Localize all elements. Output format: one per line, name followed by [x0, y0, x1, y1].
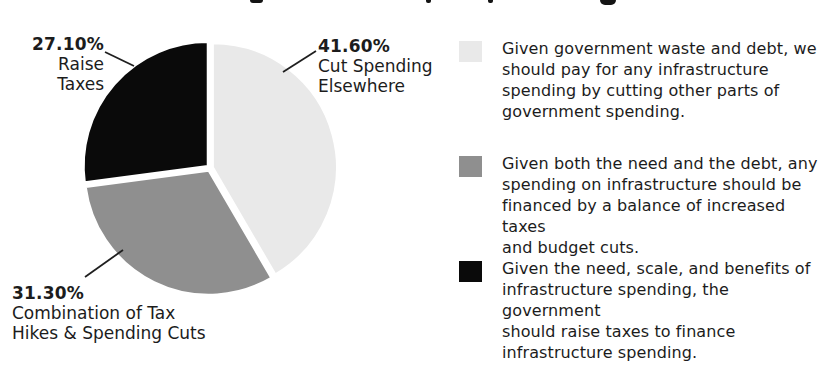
- legend-item-combination: Given both the need and the debt, any sp…: [459, 153, 824, 258]
- survey-pie-chart-figure: 27.10% Raise Taxes 41.60% Cut Spending E…: [0, 0, 824, 369]
- legend-line: infrastructure spending, the government: [502, 279, 824, 321]
- legend-line: should raise taxes to finance: [502, 321, 824, 342]
- legend-item-raise-taxes: Given the need, scale, and benefits of i…: [459, 258, 824, 363]
- legend-line: Given both the need and the debt, any: [502, 153, 824, 174]
- legend-line: Given the need, scale, and benefits of: [502, 258, 824, 279]
- legend-swatch-raise-taxes: [459, 261, 482, 282]
- leader-line-raise-taxes: [105, 52, 134, 66]
- callout-cut-spending-label-line2: Elsewhere: [318, 76, 433, 96]
- legend-text-cut-spending: Given government waste and debt, we shou…: [502, 38, 824, 122]
- callout-combination-label-line2: Hikes & Spending Cuts: [12, 323, 206, 343]
- legend-line: financed by a balance of increased taxes: [502, 195, 824, 237]
- callout-raise-taxes-label: Raise Taxes: [9, 54, 104, 94]
- callout-combination-label-line1: Combination of Tax: [12, 303, 206, 323]
- legend-line: should pay for any infrastructure: [502, 59, 824, 80]
- legend-line: government spending.: [502, 101, 824, 122]
- legend-line: Given government waste and debt, we: [502, 38, 824, 59]
- legend-swatch-combination: [459, 156, 482, 177]
- legend-text-combination: Given both the need and the debt, any sp…: [502, 153, 824, 258]
- leader-line-combination: [85, 250, 123, 277]
- legend-swatch-cut-spending: [459, 41, 482, 62]
- legend-line: infrastructure spending.: [502, 342, 824, 363]
- legend-item-cut-spending: Given government waste and debt, we shou…: [459, 38, 824, 122]
- pie-slices: [84, 42, 337, 295]
- legend-line: and budget cuts.: [502, 237, 824, 258]
- callout-cut-spending-label-line1: Cut Spending: [318, 56, 433, 76]
- callout-raise-taxes: 27.10% Raise Taxes: [9, 34, 104, 94]
- callout-raise-taxes-pct: 27.10%: [9, 34, 104, 54]
- callout-cut-spending: 41.60% Cut Spending Elsewhere: [318, 36, 433, 96]
- callout-cut-spending-pct: 41.60%: [318, 36, 433, 56]
- legend-line: spending on infrastructure should be: [502, 174, 824, 195]
- legend-text-raise-taxes: Given the need, scale, and benefits of i…: [502, 258, 824, 363]
- callout-combination-pct: 31.30%: [12, 283, 206, 303]
- callout-combination: 31.30% Combination of Tax Hikes & Spendi…: [12, 283, 206, 343]
- legend-line: spending by cutting other parts of: [502, 80, 824, 101]
- leader-line-cut-spending: [283, 51, 316, 72]
